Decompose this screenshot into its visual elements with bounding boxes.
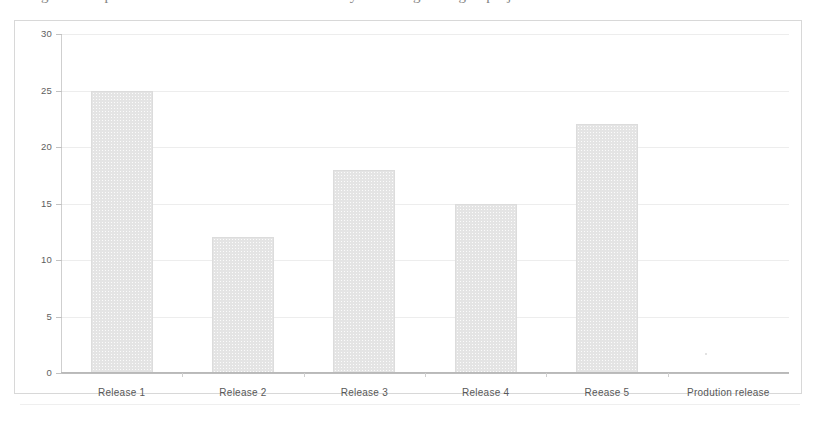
bar — [333, 170, 395, 373]
x-tick — [182, 373, 183, 377]
plot-area: 051015202530 — [61, 34, 789, 373]
bar-series — [61, 34, 789, 373]
y-tick-label-10: 10 — [41, 255, 52, 265]
x-tick — [425, 373, 426, 377]
x-axis-label: Release 3 — [341, 387, 388, 398]
bar-slot — [61, 34, 182, 373]
bar-slot — [546, 34, 667, 373]
x-axis-label: Release 1 — [98, 387, 145, 398]
bar — [91, 91, 153, 374]
chart-frame: 051015202530 Release 1Release 2Release 3… — [14, 20, 802, 394]
scan-artifact-speck — [705, 353, 707, 355]
bar-slot — [182, 34, 303, 373]
clipped-caption-text: Figure 1 : Open defects at the end of ea… — [28, 0, 530, 4]
scanned-chart-page: Figure 1 : Open defects at the end of ea… — [0, 0, 816, 421]
bar — [212, 237, 274, 373]
bar-slot — [304, 34, 425, 373]
bar-slot — [425, 34, 546, 373]
clipped-caption-above-chart: Figure 1 : Open defects at the end of ea… — [0, 0, 816, 13]
x-axis-label: Release 4 — [462, 387, 509, 398]
bar — [576, 124, 638, 373]
bar — [455, 204, 517, 374]
y-tick-0 — [56, 373, 62, 374]
y-tick-label-0: 0 — [47, 368, 52, 378]
x-tick — [304, 373, 305, 377]
x-tick — [668, 373, 669, 377]
bar-slot — [668, 34, 789, 373]
x-axis-label: Reease 5 — [585, 387, 630, 398]
y-tick-label-25: 25 — [41, 86, 52, 96]
x-axis-labels: Release 1Release 2Release 3Release 4Reea… — [61, 387, 789, 405]
x-axis-label: Prodution release — [687, 387, 770, 398]
y-tick-label-30: 30 — [41, 29, 52, 39]
y-tick-label-20: 20 — [41, 142, 52, 152]
y-tick-label-15: 15 — [41, 199, 52, 209]
x-tick — [546, 373, 547, 377]
x-axis-label: Release 2 — [219, 387, 266, 398]
scan-edge-line — [20, 404, 800, 405]
y-tick-label-5: 5 — [47, 312, 52, 322]
